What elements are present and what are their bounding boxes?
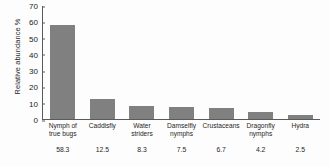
y-tick-label: 0 xyxy=(34,116,42,125)
category-label-line: Damselfly xyxy=(163,122,201,130)
y-tick-label: 10 xyxy=(29,99,42,108)
bar xyxy=(90,99,115,119)
bar-series xyxy=(43,6,320,119)
category-label: Waterstriders xyxy=(122,122,162,138)
category-label-line: true bugs xyxy=(44,130,82,138)
bar-slot xyxy=(83,6,123,119)
y-tick-label: 30 xyxy=(29,67,42,76)
value-label: 2.5 xyxy=(280,146,320,153)
y-axis-title: Relative abundance % xyxy=(13,2,22,112)
category-label: Hydra xyxy=(280,122,320,138)
y-tick-label: 40 xyxy=(29,50,42,59)
value-label: 8.3 xyxy=(122,146,162,153)
category-label-line: Hydra xyxy=(281,122,319,130)
value-label: 7.5 xyxy=(162,146,202,153)
category-label: Caddisfly xyxy=(83,122,123,138)
y-tick-label: 20 xyxy=(29,83,42,92)
y-tick-label: 60 xyxy=(29,18,42,27)
category-labels-row: Nymph oftrue bugsCaddisflyWaterstridersD… xyxy=(43,122,320,138)
category-label-line: Crustaceans xyxy=(202,122,240,130)
category-label-line: Dragonfly xyxy=(242,122,280,130)
y-tick-mark xyxy=(42,120,45,121)
category-label: Nymph oftrue bugs xyxy=(43,122,83,138)
category-label: Damselflynymphs xyxy=(162,122,202,138)
category-label: Crustaceans xyxy=(201,122,241,138)
bar-slot xyxy=(122,6,162,119)
category-label-line: Caddisfly xyxy=(84,122,122,130)
bar xyxy=(169,107,194,119)
category-label-line: nymphs xyxy=(242,130,280,138)
bar-slot xyxy=(162,6,202,119)
bar-slot xyxy=(280,6,320,119)
bar-slot xyxy=(201,6,241,119)
bar xyxy=(209,108,234,119)
bar xyxy=(129,106,154,119)
plot-area: 706050403020100 xyxy=(42,6,320,120)
bar xyxy=(288,115,313,119)
bar xyxy=(50,25,75,119)
category-label-line: striders xyxy=(123,130,161,138)
bar xyxy=(248,112,273,119)
value-label: 4.2 xyxy=(241,146,281,153)
value-labels-row: 58.312.58.37.56.74.22.5 xyxy=(43,146,320,153)
category-label-line: nymphs xyxy=(163,130,201,138)
category-label: Dragonflynymphs xyxy=(241,122,281,138)
category-label-line: Water xyxy=(123,122,161,130)
value-label: 58.3 xyxy=(43,146,83,153)
y-tick-label: 50 xyxy=(29,34,42,43)
bar-slot xyxy=(241,6,281,119)
category-label-line: Nymph of xyxy=(44,122,82,130)
x-axis-line xyxy=(42,119,320,120)
bar-slot xyxy=(43,6,83,119)
y-tick-label: 70 xyxy=(29,2,42,11)
bar-chart-figure: Relative abundance % 706050403020100 Nym… xyxy=(0,0,330,166)
value-label: 12.5 xyxy=(83,146,123,153)
value-label: 6.7 xyxy=(201,146,241,153)
